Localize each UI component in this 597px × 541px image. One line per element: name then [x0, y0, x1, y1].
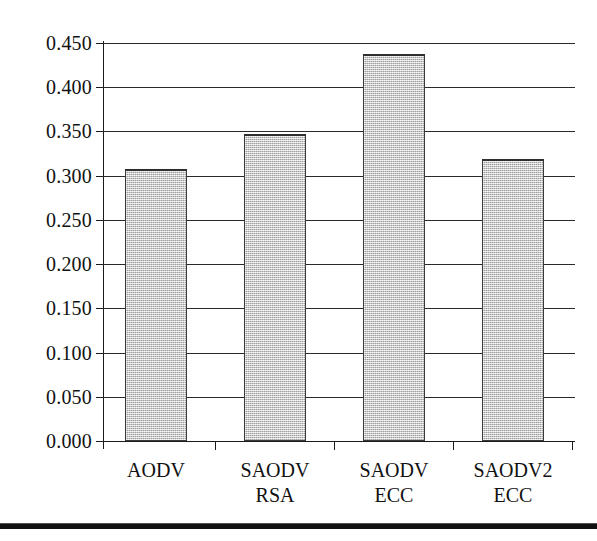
- y-axis-tick-label: 0.050: [6, 387, 92, 407]
- gridline: [103, 131, 575, 132]
- plot-area: [103, 43, 575, 441]
- bar: [125, 169, 187, 441]
- bar: [482, 159, 544, 441]
- page-bottom-rule: [0, 523, 597, 529]
- x-axis-tick: [215, 441, 216, 450]
- bar: [363, 54, 425, 441]
- y-axis-tick-labels: 0.0000.0500.1000.1500.2000.2500.3000.350…: [0, 0, 92, 541]
- x-axis-line: [96, 441, 575, 442]
- bar-chart-figure: 0.0000.0500.1000.1500.2000.2500.3000.350…: [0, 0, 597, 541]
- y-axis-tick-label: 0.400: [6, 77, 92, 97]
- y-axis-tick-label: 0.300: [6, 166, 92, 186]
- x-axis-tick: [572, 441, 573, 450]
- gridline: [103, 87, 575, 88]
- bar: [244, 134, 306, 441]
- y-axis-tick-label: 0.150: [6, 298, 92, 318]
- y-axis-tick-label: 0.450: [6, 33, 92, 53]
- y-axis-tick-label: 0.350: [6, 121, 92, 141]
- x-axis-tick: [334, 441, 335, 450]
- gridline: [103, 43, 575, 44]
- y-axis-tick-label: 0.000: [6, 431, 92, 451]
- y-axis-tick-label: 0.200: [6, 254, 92, 274]
- y-axis-tick-label: 0.250: [6, 210, 92, 230]
- y-axis-tick-label: 0.100: [6, 343, 92, 363]
- x-axis-category-label: SAODV2 ECC: [443, 458, 583, 508]
- x-axis-tick: [453, 441, 454, 450]
